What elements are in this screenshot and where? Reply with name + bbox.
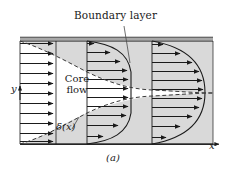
y-axis-label: y bbox=[11, 84, 17, 95]
core-flow-label-line1: Core bbox=[57, 74, 97, 85]
figure-caption: (a) bbox=[0, 153, 226, 164]
boundary-layer-shading bbox=[20, 41, 213, 144]
core-flow-label: Core flow bbox=[57, 74, 97, 95]
boundary-layer-label: Boundary layer bbox=[74, 10, 157, 21]
inlet-velocity-arrows bbox=[20, 44, 53, 142]
x-axis-label: x bbox=[209, 141, 215, 152]
delta-x-label: δ(x) bbox=[56, 122, 75, 133]
duct-flow-diagram bbox=[0, 0, 226, 173]
boundary-layer-figure: Boundary layer Core flow δ(x) y x (a) bbox=[0, 0, 226, 173]
core-flow-label-line2: flow bbox=[57, 85, 97, 96]
